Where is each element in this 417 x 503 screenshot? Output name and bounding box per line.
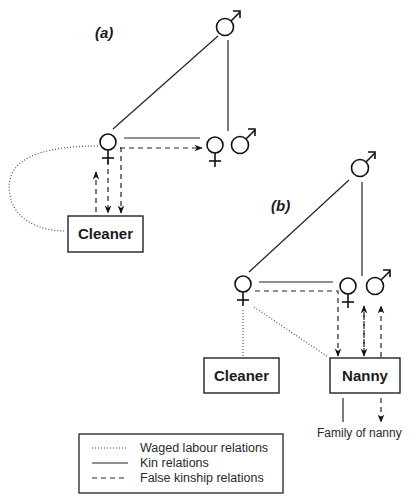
nanny-label: Nanny xyxy=(342,367,389,384)
female-icon xyxy=(235,276,251,306)
legend-label-waged: Waged labour relations xyxy=(140,441,268,455)
female-icon xyxy=(100,134,116,164)
kinship-diagram: (a) xyxy=(0,0,417,503)
legend: Waged labour relations Kin relations Fal… xyxy=(79,434,283,493)
waged-line-b-nanny xyxy=(254,307,328,357)
panel-a-label: (a) xyxy=(95,24,113,41)
nanny-box: Nanny xyxy=(330,358,400,393)
false-kin-arrow-b-nanny xyxy=(255,291,338,356)
female-icon xyxy=(207,137,223,167)
male-icon xyxy=(232,129,256,154)
legend-label-false: False kinship relations xyxy=(140,471,264,485)
male-icon xyxy=(217,11,241,36)
family-of-nanny-label: Family of nanny xyxy=(317,426,402,440)
cleaner-box-a: Cleaner xyxy=(68,216,143,252)
panel-b-label: (b) xyxy=(271,197,290,214)
false-kin-arrow-a-down-2 xyxy=(120,148,121,213)
male-icon xyxy=(367,270,391,295)
cleaner-box-b: Cleaner xyxy=(204,358,279,393)
female-icon xyxy=(340,278,356,308)
cleaner-label-a: Cleaner xyxy=(78,225,133,242)
legend-label-kin: Kin relations xyxy=(140,456,209,470)
cleaner-label-b: Cleaner xyxy=(214,367,269,384)
kin-line-b-top-female xyxy=(249,180,349,272)
kin-line-a-top-female xyxy=(113,36,218,129)
panel-b: (b) xyxy=(204,152,402,440)
panel-a: (a) xyxy=(9,11,255,252)
male-icon xyxy=(352,152,376,177)
